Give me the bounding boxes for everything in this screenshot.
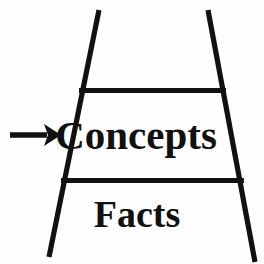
band-label-facts: Facts: [0, 193, 264, 235]
band-label-concepts: Concepts: [0, 113, 264, 157]
diagram-canvas: Concepts Facts: [0, 0, 264, 264]
